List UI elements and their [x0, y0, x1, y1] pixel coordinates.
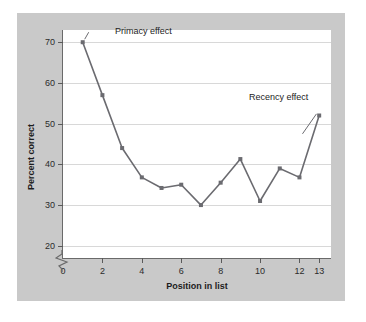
primacy-leader-line — [85, 32, 89, 39]
x-tick-label: 12 — [294, 266, 304, 276]
x-tick-mark — [319, 258, 320, 263]
y-tick-label: 50 — [45, 119, 55, 129]
y-tick-label: 20 — [45, 241, 55, 251]
data-point-marker — [120, 146, 124, 150]
y-tick-label: 70 — [45, 37, 55, 47]
plot-area: 203040506070 02468101213 Primacy effect … — [63, 30, 331, 258]
x-tick-mark — [299, 258, 300, 263]
x-tick-label: 4 — [139, 266, 144, 276]
x-tick-label: 10 — [255, 266, 265, 276]
x-tick-mark — [142, 258, 143, 263]
x-tick-label: 8 — [218, 266, 223, 276]
data-point-marker — [179, 183, 183, 187]
x-tick-label: 2 — [100, 266, 105, 276]
x-tick-mark — [102, 258, 103, 263]
y-tick-label: 40 — [45, 159, 55, 169]
data-point-marker — [297, 175, 301, 179]
x-tick-label: 6 — [179, 266, 184, 276]
annotation-primacy-effect: Primacy effect — [115, 26, 172, 36]
y-tick-label: 30 — [45, 200, 55, 210]
data-series-line — [63, 30, 331, 258]
data-point-marker — [199, 203, 203, 207]
annotation-recency-effect: Recency effect — [249, 92, 308, 102]
y-axis-title: Percent correct — [26, 124, 36, 190]
x-tick-mark — [260, 258, 261, 263]
data-point-marker — [278, 166, 282, 170]
y-tick-label: 60 — [45, 78, 55, 88]
data-point-marker — [160, 186, 164, 190]
x-tick-mark — [181, 258, 182, 263]
data-point-marker — [238, 157, 242, 161]
data-point-marker — [81, 40, 85, 44]
data-point-marker — [219, 181, 223, 185]
data-point-marker — [100, 93, 104, 97]
x-tick-mark — [221, 258, 222, 263]
figure-panel: Percent correct 203040506070 02468101213… — [17, 13, 345, 301]
data-point-marker — [140, 175, 144, 179]
x-tick-label: 13 — [314, 266, 324, 276]
data-point-marker — [258, 199, 262, 203]
data-point-marker — [317, 114, 321, 118]
x-axis-title: Position in list — [63, 281, 331, 291]
